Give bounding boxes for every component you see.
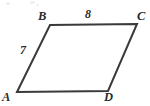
vertex-label-a: A <box>2 91 10 104</box>
vertex-label-c: C <box>137 10 145 23</box>
geometry-figure: B C A D 8 7 <box>0 0 150 106</box>
side-length-label-ab: 7 <box>20 44 26 56</box>
vertex-label-b: B <box>38 10 46 23</box>
vertex-label-d: D <box>104 91 113 104</box>
side-length-label-bc: 8 <box>85 8 91 20</box>
parallelogram-outline <box>17 24 137 92</box>
